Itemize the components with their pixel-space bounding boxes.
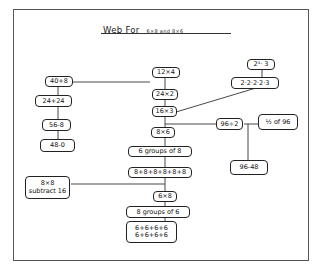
node-label: 96÷2 [221, 121, 239, 128]
node-6-groups-of-8: 6 groups of 8 [128, 146, 192, 157]
node-6-sum: 6+6+6+6 6+6+6+6 [126, 221, 177, 243]
node-label: 24+24 [43, 98, 65, 105]
node-48-minus-0: 48-0 [40, 139, 75, 152]
node-label: 8 groups of 6 [137, 209, 180, 216]
node-2-pow-4-times-3: 2⁴· 3 [247, 59, 275, 70]
connector [176, 88, 256, 112]
node-label: 6×8 [158, 193, 172, 200]
node-label: 16×3 [156, 108, 174, 115]
node-label: 56-8 [49, 122, 64, 129]
node-label: 96-48 [240, 164, 259, 171]
node-half-of-96: ½ of 96 [258, 114, 298, 130]
node-label: 48-0 [50, 142, 65, 149]
node-label-line2: 6+6+6+6 [135, 232, 168, 239]
node-6-times-8: 6×8 [153, 191, 177, 202]
node-40-plus-8: 40+8 [45, 76, 73, 87]
node-label: 40+8 [50, 78, 68, 85]
node-label: 6 groups of 8 [139, 148, 182, 155]
node-label-line2: subtract 16 [29, 188, 66, 195]
node-label: 8+8+8+8+8+8 [134, 169, 186, 176]
node-label: 12×4 [157, 69, 175, 76]
node-label: ½ of 96 [266, 119, 291, 126]
node-96-div-2: 96÷2 [216, 118, 243, 130]
node-12-times-4: 12×4 [152, 67, 180, 78]
node-8-times-6: 8×6 [151, 127, 175, 138]
node-8-groups-of-6: 8 groups of 6 [126, 206, 190, 218]
node-24-plus-24: 24+24 [35, 95, 72, 107]
node-56-minus-8: 56-8 [42, 119, 71, 131]
node-label: 24×2 [156, 91, 174, 98]
node-label: 8×6 [156, 129, 170, 136]
node-8-sum: 8+8+8+8+8+8 [128, 167, 192, 178]
node-16-times-3: 16×3 [152, 106, 177, 117]
node-24-times-2: 24×2 [152, 89, 178, 100]
node-96-minus-48: 96-48 [230, 160, 268, 175]
node-2-2-2-2-3: 2·2·2·2·3 [231, 77, 279, 89]
node-8-times-8-subtract-16: 8×8 subtract 16 [25, 176, 70, 199]
node-label: 2·2·2·2·3 [241, 80, 270, 87]
node-label: 2⁴· 3 [253, 61, 268, 68]
